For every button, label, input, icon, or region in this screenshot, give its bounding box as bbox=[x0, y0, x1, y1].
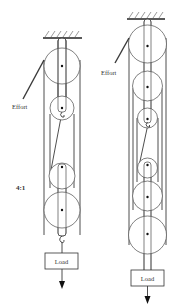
left-effort-rope bbox=[23, 60, 44, 99]
left-load-label: Load bbox=[55, 258, 69, 265]
right-fixed-pulley-large bbox=[129, 25, 167, 63]
ratio-label: 4:1 bbox=[16, 184, 26, 192]
left-effort-label: Effort bbox=[12, 103, 28, 110]
left-pulley-system: Load Effort 4:1 bbox=[12, 31, 82, 289]
left-load-hook bbox=[60, 236, 64, 253]
right-ropes bbox=[115, 38, 166, 245]
right-effort-label: Effort bbox=[101, 69, 117, 76]
right-moving-pulley-small bbox=[138, 158, 158, 178]
right-load-label: Load bbox=[141, 275, 155, 282]
right-down-arrow-icon bbox=[145, 296, 151, 304]
right-pulley-system: Load Effort bbox=[101, 12, 167, 304]
right-ceiling-support bbox=[127, 12, 165, 19]
pulley-systems-diagram: Load Effort 4:1 bbox=[0, 0, 173, 307]
left-down-arrow-icon bbox=[59, 281, 65, 289]
left-ceiling-support bbox=[43, 31, 82, 38]
right-effort-rope bbox=[115, 38, 129, 63]
